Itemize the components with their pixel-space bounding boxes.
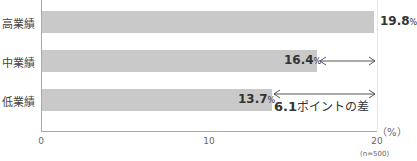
x-axis-unit: （%） bbox=[377, 124, 407, 139]
x-tick-10: 10 bbox=[203, 136, 214, 146]
difference-annotation: 6.1ポイントの差 bbox=[274, 97, 369, 114]
sample-size-note: (n=500) bbox=[360, 150, 389, 158]
x-tick-0: 0 bbox=[38, 136, 44, 146]
